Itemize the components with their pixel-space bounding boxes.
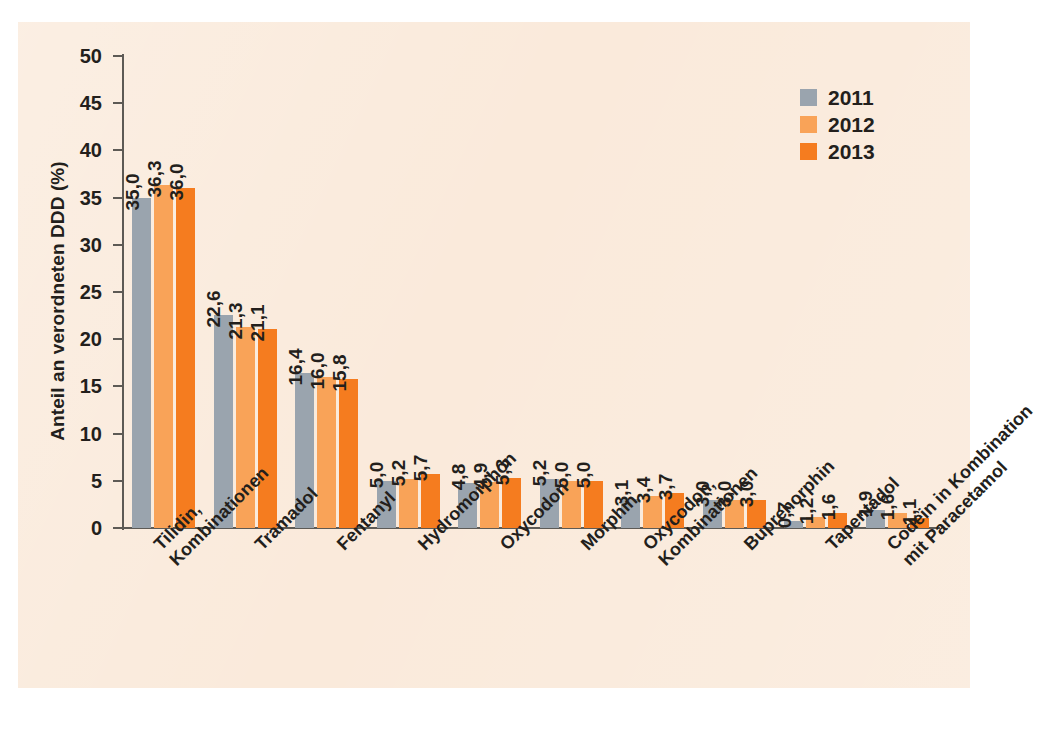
y-axis-tick bbox=[113, 480, 122, 482]
bar bbox=[317, 377, 336, 528]
y-axis-tick bbox=[113, 527, 122, 529]
x-axis-category-label: Codein in Kombinationmit Paracetamol bbox=[883, 401, 1038, 571]
y-axis-tick bbox=[113, 433, 122, 435]
bar-value-label: 22,6 bbox=[204, 290, 223, 327]
bar-value-label: 21,3 bbox=[226, 302, 245, 339]
category-label-line1: Codein in Kombination bbox=[883, 401, 1036, 554]
y-axis-tick bbox=[113, 244, 122, 246]
y-axis-tick-label: 45 bbox=[62, 93, 102, 113]
bar-value-label: 21,1 bbox=[248, 304, 267, 341]
y-axis-tick bbox=[113, 55, 122, 57]
bar-value-label: 36,3 bbox=[145, 161, 164, 198]
legend-swatch-icon bbox=[800, 116, 817, 133]
bar-rect bbox=[176, 188, 195, 528]
y-axis-tick bbox=[113, 149, 122, 151]
bar-rect bbox=[339, 379, 358, 528]
bar-value-label: 3,7 bbox=[656, 474, 675, 500]
bar-value-label: 1,6 bbox=[819, 494, 838, 520]
bar bbox=[339, 379, 358, 528]
y-axis-tick-label: 50 bbox=[62, 46, 102, 66]
bar bbox=[132, 198, 151, 528]
y-axis-tick bbox=[113, 291, 122, 293]
y-axis-tick bbox=[113, 102, 122, 104]
bar-value-label: 35,0 bbox=[123, 173, 142, 210]
y-axis-tick-label: 10 bbox=[62, 424, 102, 444]
y-axis-tick-label: 15 bbox=[62, 376, 102, 396]
legend-swatch-icon bbox=[800, 143, 817, 160]
bar-rect bbox=[132, 198, 151, 528]
y-axis-tick bbox=[113, 197, 122, 199]
bar-value-label: 5,0 bbox=[574, 462, 593, 488]
bar-rect bbox=[399, 479, 418, 528]
bar bbox=[154, 185, 173, 528]
legend-item-2013: 2013 bbox=[800, 138, 875, 165]
y-axis-tick-label: 20 bbox=[62, 329, 102, 349]
bar-value-label: 5,0 bbox=[367, 462, 386, 488]
bar-value-label: 16,0 bbox=[308, 352, 327, 389]
legend: 201120122013 bbox=[800, 84, 875, 165]
bar-rect bbox=[317, 377, 336, 528]
y-axis-tick-label: 5 bbox=[62, 471, 102, 491]
bar-value-label: 5,7 bbox=[411, 455, 430, 481]
bar-value-label: 5,2 bbox=[389, 460, 408, 486]
y-axis-tick-label: 25 bbox=[62, 282, 102, 302]
legend-swatch-icon bbox=[800, 89, 817, 106]
bar-value-label: 16,4 bbox=[286, 349, 305, 386]
bar-rect bbox=[258, 329, 277, 528]
category-label-line2: mit Paracetamol bbox=[899, 416, 1038, 571]
bar bbox=[176, 188, 195, 528]
bar-value-label: 5,2 bbox=[530, 460, 549, 486]
legend-label: 2011 bbox=[828, 87, 874, 108]
y-axis-tick-label: 30 bbox=[62, 235, 102, 255]
bar bbox=[399, 479, 418, 528]
legend-item-2012: 2012 bbox=[800, 111, 875, 138]
y-axis-tick bbox=[113, 385, 122, 387]
bar-value-label: 36,0 bbox=[167, 164, 186, 201]
bar bbox=[258, 329, 277, 528]
y-axis-tick-label: 0 bbox=[62, 518, 102, 538]
y-axis-tick-label: 40 bbox=[62, 140, 102, 160]
legend-label: 2013 bbox=[828, 141, 875, 162]
y-axis-tick-label: 35 bbox=[62, 188, 102, 208]
bar-rect bbox=[154, 185, 173, 528]
bar-value-label: 15,8 bbox=[330, 354, 349, 391]
y-axis-tick bbox=[113, 338, 122, 340]
legend-item-2011: 2011 bbox=[800, 84, 875, 111]
legend-label: 2012 bbox=[828, 114, 875, 135]
y-axis-line bbox=[122, 54, 124, 530]
bar-value-label: 4,8 bbox=[449, 463, 468, 489]
